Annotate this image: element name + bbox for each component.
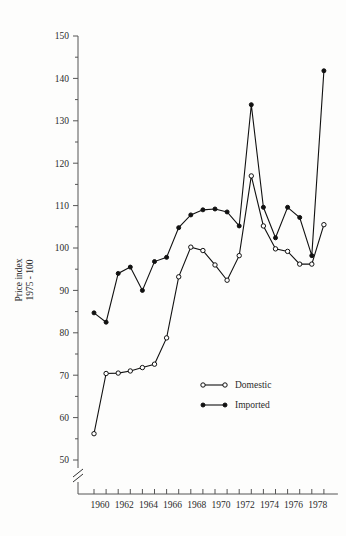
y-tick-label: 110 [55,201,69,211]
data-point-imported [140,288,144,292]
y-tick-label: 60 [60,413,70,423]
data-point-imported [225,210,229,214]
data-point-domestic [164,336,168,340]
legend-marker-imported [201,403,205,407]
data-point-imported [104,320,108,324]
data-point-imported [249,103,253,107]
y-tick-label: 120 [55,159,70,169]
data-point-imported [310,254,314,258]
data-point-imported [177,226,181,230]
y-tick-label: 90 [60,286,70,296]
data-point-domestic [310,262,314,266]
data-point-domestic [213,263,217,267]
chart-canvas: 5060708090100110120130140150 19601962196… [0,0,346,536]
y-tick-label: 130 [55,116,70,126]
data-point-domestic [201,248,205,252]
data-point-imported [165,255,169,259]
data-point-domestic [128,369,132,373]
y-axis-title-line1: Price index [14,258,24,301]
y-tick-label: 50 [60,455,70,465]
data-point-domestic [298,262,302,266]
data-point-domestic [225,278,229,282]
x-axis: 1960196219641966196819701972197419761978 [78,489,338,510]
y-tick-label: 150 [55,31,70,41]
data-point-imported [116,271,120,275]
x-tick-label: 1978 [308,500,327,510]
x-tick-label: 1966 [163,500,182,510]
data-point-domestic [237,253,241,257]
x-tick-label: 1962 [115,500,134,510]
legend-marker-imported [223,403,227,407]
x-tick-label: 1976 [284,500,303,510]
series-line-domestic [94,176,324,434]
data-point-imported [213,207,217,211]
y-axis-title-line2: 1975 - 100 [25,259,35,300]
x-tick-label: 1970 [212,500,231,510]
data-point-domestic [261,224,265,228]
data-point-imported [128,265,132,269]
x-tick-label: 1968 [187,500,206,510]
data-point-imported [201,208,205,212]
data-point-domestic [189,245,193,249]
legend-marker-domestic [223,383,227,387]
x-tick-label: 1972 [236,500,255,510]
data-point-domestic [249,174,253,178]
y-tick-label: 140 [55,74,70,84]
data-point-domestic [140,365,144,369]
data-point-domestic [273,247,277,251]
data-point-imported [237,224,241,228]
data-point-domestic [104,371,108,375]
y-tick-label: 70 [60,371,70,381]
x-tick-label: 1960 [91,500,110,510]
data-point-domestic [177,275,181,279]
data-point-domestic [116,371,120,375]
x-tick-label: 1964 [139,500,158,510]
data-point-imported [261,205,265,209]
data-point-domestic [92,432,96,436]
y-tick-label: 80 [60,328,70,338]
y-axis: 5060708090100110120130140150 [55,31,78,468]
y-axis-title: Price index1975 - 100 [14,258,35,301]
data-point-domestic [285,249,289,253]
y-tick-label: 100 [55,243,70,253]
price-index-line-chart: 5060708090100110120130140150 19601962196… [0,0,346,536]
data-series-group [92,69,326,436]
legend-label-imported: Imported [235,400,270,410]
data-point-imported [322,69,326,73]
data-point-domestic [152,362,156,366]
chart-legend: DomesticImported [201,380,272,410]
x-tick-label: 1974 [260,500,279,510]
data-point-imported [286,205,290,209]
data-point-imported [92,311,96,315]
series-line-imported [94,71,324,322]
legend-label-domestic: Domestic [235,380,271,390]
data-point-imported [153,260,157,264]
data-point-imported [298,215,302,219]
legend-marker-domestic [201,383,205,387]
data-point-domestic [322,222,326,226]
data-point-imported [274,236,278,240]
data-point-imported [189,213,193,217]
axis-break-symbol [73,469,83,494]
